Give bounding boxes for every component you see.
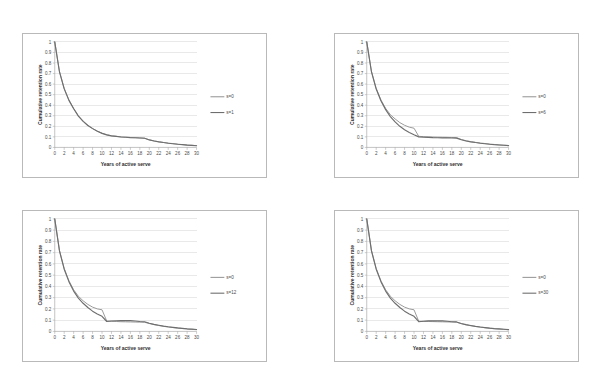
x-tick-label: 30 xyxy=(506,151,512,156)
y-tick-label: 0.2 xyxy=(45,307,52,312)
y-tick-label: 0.9 xyxy=(45,50,52,55)
x-tick-label: 12 xyxy=(421,335,427,340)
y-tick-label: 0.8 xyxy=(357,61,364,66)
x-tick-label: 4 xyxy=(72,335,75,340)
x-tick-label: 10 xyxy=(411,151,417,156)
legend-label-s0: s=0 xyxy=(538,275,546,280)
y-tick-label: 0.7 xyxy=(357,71,364,76)
y-tick-label: 1 xyxy=(361,217,364,222)
x-tick-label: 8 xyxy=(91,151,94,156)
legend-label-s6: s=6 xyxy=(538,110,546,115)
y-tick-label: 1 xyxy=(361,40,364,45)
y-tick-label: 0.6 xyxy=(45,82,52,87)
x-tick-label: 10 xyxy=(99,151,105,156)
legend-label-s12: s=12 xyxy=(226,290,236,295)
chart-panel-d: 00.10.20.30.40.50.60.70.80.9102468101214… xyxy=(334,210,579,362)
x-tick-label: 22 xyxy=(156,335,162,340)
x-tick-label: 8 xyxy=(403,151,406,156)
y-tick-label: 1 xyxy=(49,40,52,45)
x-tick-label: 30 xyxy=(194,151,200,156)
x-tick-label: 12 xyxy=(109,335,115,340)
retention-chart-c: 00.10.20.30.40.50.60.70.80.9102468101214… xyxy=(23,211,266,361)
x-tick-label: 14 xyxy=(430,335,436,340)
x-tick-label: 14 xyxy=(430,151,436,156)
y-tick-label: 0 xyxy=(361,145,364,150)
x-tick-label: 16 xyxy=(440,151,446,156)
x-axis-title: Years of active serve xyxy=(413,161,463,167)
y-tick-label: 0.2 xyxy=(357,307,364,312)
x-tick-label: 20 xyxy=(459,151,465,156)
x-tick-label: 4 xyxy=(384,151,387,156)
y-axis-title: Cumulative retention rate xyxy=(349,64,355,125)
chart-cell-b: 00.10.20.30.40.50.60.70.80.9102468101214… xyxy=(302,0,604,192)
y-tick-label: 0.5 xyxy=(357,92,364,97)
x-tick-label: 2 xyxy=(63,335,66,340)
legend-label-s0: s=0 xyxy=(226,275,234,280)
y-tick-label: 0.6 xyxy=(357,82,364,87)
series-line-s12 xyxy=(55,219,197,330)
y-tick-label: 0.5 xyxy=(45,273,52,278)
legend-label-s30: s=30 xyxy=(538,290,548,295)
x-axis-title: Years of active serve xyxy=(101,345,151,351)
y-tick-label: 1 xyxy=(49,217,52,222)
x-tick-label: 18 xyxy=(137,151,143,156)
x-tick-label: 4 xyxy=(72,151,75,156)
y-tick-label: 0.8 xyxy=(45,239,52,244)
legend-label-s0: s=0 xyxy=(538,94,546,99)
x-tick-label: 22 xyxy=(468,335,474,340)
chart-panel-b: 00.10.20.30.40.50.60.70.80.9102468101214… xyxy=(334,33,579,178)
y-tick-label: 0.9 xyxy=(357,50,364,55)
x-tick-label: 18 xyxy=(137,335,143,340)
x-tick-label: 16 xyxy=(128,151,134,156)
x-tick-label: 10 xyxy=(411,335,417,340)
series-line-s30 xyxy=(367,219,509,330)
series-line-s0 xyxy=(367,219,509,330)
x-tick-label: 24 xyxy=(478,335,484,340)
x-tick-label: 6 xyxy=(82,335,85,340)
x-tick-label: 12 xyxy=(109,151,115,156)
x-tick-label: 20 xyxy=(147,151,153,156)
x-tick-label: 0 xyxy=(53,151,56,156)
x-tick-label: 14 xyxy=(118,151,124,156)
y-tick-label: 0.6 xyxy=(357,262,364,267)
chart-cell-a: 00.10.20.30.40.50.60.70.80.9102468101214… xyxy=(0,0,302,192)
x-tick-label: 4 xyxy=(384,335,387,340)
x-tick-label: 30 xyxy=(506,335,512,340)
y-tick-label: 0.3 xyxy=(357,295,364,300)
y-tick-label: 0.9 xyxy=(45,228,52,233)
y-axis-title: Cumulative retention rate xyxy=(37,245,43,306)
y-tick-label: 0.1 xyxy=(45,318,52,323)
chart-cell-d: 00.10.20.30.40.50.60.70.80.9102468101214… xyxy=(302,192,604,383)
x-tick-label: 24 xyxy=(478,151,484,156)
legend-label-s1: s=1 xyxy=(226,110,234,115)
x-tick-label: 22 xyxy=(156,151,162,156)
y-tick-label: 0.1 xyxy=(357,135,364,140)
y-tick-label: 0.5 xyxy=(357,273,364,278)
y-axis-title: Cumulative retention rate xyxy=(349,245,355,306)
chart-cell-c: 00.10.20.30.40.50.60.70.80.9102468101214… xyxy=(0,192,302,383)
y-tick-label: 0.7 xyxy=(45,71,52,76)
y-tick-label: 0.2 xyxy=(357,124,364,129)
y-axis-title: Cumulative retention rate xyxy=(37,64,43,125)
x-tick-label: 6 xyxy=(82,151,85,156)
series-line-s0 xyxy=(367,42,509,146)
x-tick-label: 26 xyxy=(175,335,181,340)
x-tick-label: 2 xyxy=(375,335,378,340)
chart-panel-a: 00.10.20.30.40.50.60.70.80.9102468101214… xyxy=(22,33,267,178)
y-tick-label: 0.5 xyxy=(45,92,52,97)
x-tick-label: 14 xyxy=(118,335,124,340)
x-tick-label: 0 xyxy=(365,151,368,156)
y-tick-label: 0.3 xyxy=(357,113,364,118)
x-tick-label: 6 xyxy=(394,335,397,340)
y-tick-label: 0.7 xyxy=(45,250,52,255)
x-tick-label: 18 xyxy=(449,335,455,340)
series-line-s1 xyxy=(55,42,197,146)
x-tick-label: 20 xyxy=(147,335,153,340)
y-tick-label: 0.3 xyxy=(45,113,52,118)
x-tick-label: 28 xyxy=(185,335,191,340)
x-tick-label: 26 xyxy=(487,151,493,156)
x-axis-title: Years of active serve xyxy=(101,161,151,167)
chart-panel-c: 00.10.20.30.40.50.60.70.80.9102468101214… xyxy=(22,210,267,362)
y-tick-label: 0.8 xyxy=(357,239,364,244)
y-tick-label: 0.2 xyxy=(45,124,52,129)
